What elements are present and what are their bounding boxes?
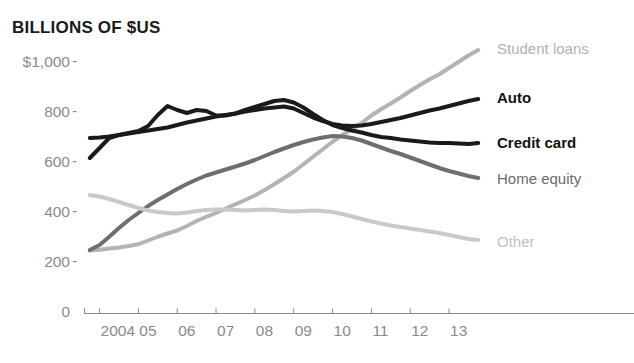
series-line-home-equity <box>90 136 478 250</box>
series-line-auto <box>90 99 478 138</box>
plot-area <box>0 0 634 363</box>
axis-lines <box>84 308 634 314</box>
series-lines <box>90 50 478 251</box>
line-chart-figure: BILLIONS OF $US $1,000-800-600-400-200-0… <box>0 0 634 363</box>
series-line-other <box>90 195 478 240</box>
